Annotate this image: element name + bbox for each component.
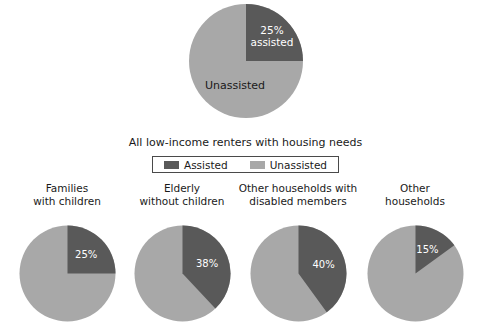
small-chart-elderly-without-children: Elderly without children 38% [120, 182, 244, 321]
legend-label-unassisted: Unassisted [270, 159, 327, 171]
small-multiples-row: Families with children 25% Elderly witho… [0, 182, 491, 321]
small-pie-svg [134, 225, 231, 322]
legend-item-assisted: Assisted [164, 159, 228, 171]
small-pie-graphic: 40% [250, 225, 347, 322]
small-pie-svg [250, 225, 347, 322]
hero-slice-assisted [246, 4, 303, 61]
small-pie-graphic: 38% [134, 225, 231, 322]
hero-pie-graphic [188, 2, 304, 120]
small-chart-title: Other households [353, 182, 477, 208]
small-chart-other-households-disabled: Other households with disabled members 4… [236, 182, 360, 321]
legend-label-assisted: Assisted [184, 159, 228, 171]
chart-caption: All low-income renters with housing need… [0, 136, 491, 149]
legend-swatch-assisted-icon [164, 161, 179, 169]
legend-swatch-unassisted-icon [250, 161, 265, 169]
hero-unassisted-label: Unassisted [192, 79, 278, 92]
small-slice-assisted [68, 226, 116, 274]
small-pie-graphic: 15% [367, 225, 464, 322]
small-pie-graphic: 25% [19, 225, 116, 322]
hero-pie-chart: 25% assisted Unassisted [188, 2, 304, 120]
hero-pie-svg [188, 2, 304, 120]
small-pie-svg [367, 225, 464, 322]
small-pie-svg [19, 225, 116, 322]
legend-item-unassisted: Unassisted [250, 159, 327, 171]
small-chart-other-households: Other households 15% [353, 182, 477, 321]
small-chart-families-with-children: Families with children 25% [5, 182, 129, 321]
small-chart-title: Other households with disabled members [236, 182, 360, 208]
small-chart-title: Elderly without children [120, 182, 244, 208]
legend: Assisted Unassisted [152, 156, 339, 173]
small-chart-title: Families with children [5, 182, 129, 208]
